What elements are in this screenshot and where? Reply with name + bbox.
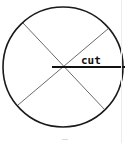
circle-diagram: cut (0, 0, 127, 143)
cut-label: cut (81, 54, 101, 67)
page-edge-divider (121, 0, 122, 143)
faint-mark (62, 139, 68, 140)
diagram-canvas (0, 0, 127, 143)
